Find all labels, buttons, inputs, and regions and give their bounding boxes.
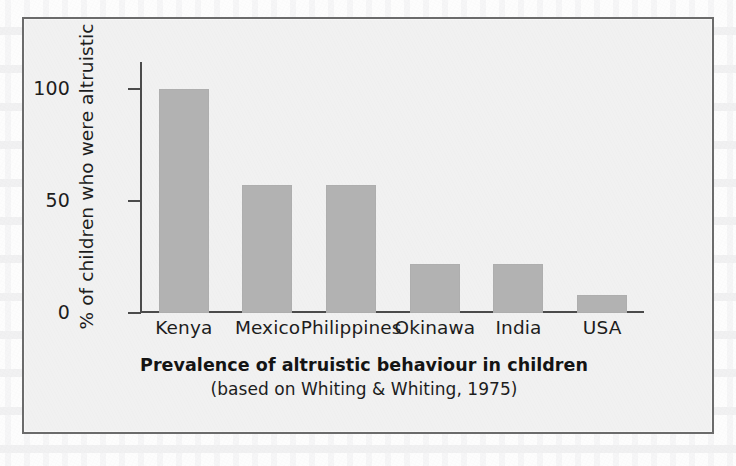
bar-group-usa: USA — [560, 62, 644, 313]
figure-caption: Prevalence of altruistic behaviour in ch… — [64, 355, 664, 400]
x-tick-label-usa: USA — [583, 317, 622, 338]
x-tick-label-philippines: Philippines — [301, 317, 402, 338]
bar-philippines — [326, 185, 376, 313]
y-tick-mark-0 — [128, 312, 141, 314]
bar-group-mexico: Mexico — [226, 62, 310, 313]
bar-group-okinawa: Okinawa — [393, 62, 477, 313]
bar-mexico — [242, 185, 292, 313]
bar-india — [493, 264, 543, 313]
bar-series: KenyaMexicoPhilippinesOkinawaIndiaUSA — [142, 62, 644, 313]
y-tick-label-100: 100 — [33, 77, 70, 99]
bar-okinawa — [410, 264, 460, 313]
bar-group-kenya: Kenya — [142, 62, 226, 313]
scanned-page: 050100 % of children who were altruistic… — [0, 0, 736, 466]
y-axis-title: % of children who were altruistic — [76, 30, 97, 330]
y-tick-mark-100 — [128, 88, 141, 90]
x-tick-label-mexico: Mexico — [235, 317, 300, 338]
y-tick-label-0: 0 — [58, 301, 70, 323]
bar-kenya — [159, 89, 209, 313]
caption-title: Prevalence of altruistic behaviour in ch… — [64, 355, 664, 377]
x-tick-label-okinawa: Okinawa — [395, 317, 476, 338]
y-tick-label-50: 50 — [45, 189, 70, 211]
x-tick-label-kenya: Kenya — [155, 317, 212, 338]
bar-group-india: India — [477, 62, 561, 313]
caption-source: (based on Whiting & Whiting, 1975) — [64, 378, 664, 400]
figure-frame: 050100 % of children who were altruistic… — [22, 17, 714, 434]
bar-usa — [577, 295, 627, 313]
x-tick-label-india: India — [496, 317, 542, 338]
bar-group-philippines: Philippines — [309, 62, 393, 313]
y-tick-mark-50 — [128, 200, 141, 202]
